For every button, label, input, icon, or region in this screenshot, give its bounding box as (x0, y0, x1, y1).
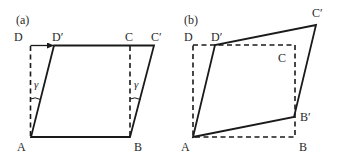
label-b-prime: B′ (300, 110, 311, 124)
angle-arc-right (130, 98, 141, 100)
label-b: B (299, 140, 307, 154)
panel-a: (a) γ γ D D′ C C′ A B (14, 13, 162, 154)
label-c-prime: C′ (312, 6, 323, 20)
label-d-prime: D′ (211, 30, 223, 44)
label-d: D (14, 30, 23, 44)
deformed-parallelogram (31, 46, 154, 138)
label-b: B (134, 140, 142, 154)
panel-a-tag: (a) (16, 13, 29, 27)
label-d-prime: D′ (52, 30, 64, 44)
angle-arc-left (31, 98, 41, 100)
gamma-label-right: γ (134, 78, 139, 90)
label-a: A (181, 140, 190, 154)
label-c-prime: C′ (151, 30, 162, 44)
gamma-label-left: γ (34, 78, 39, 90)
panel-b-tag: (b) (184, 13, 198, 27)
label-c: C (278, 51, 286, 65)
label-d: D (184, 30, 193, 44)
label-c: C (125, 30, 133, 44)
label-a: A (17, 140, 26, 154)
shear-diagram: (a) γ γ D D′ C C′ A B (b) D D′ C C′ B′ (0, 0, 337, 156)
panel-b: (b) D D′ C C′ B′ B A (181, 6, 323, 154)
